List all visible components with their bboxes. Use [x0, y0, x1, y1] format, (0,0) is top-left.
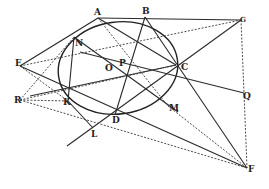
line-N-L [68, 37, 74, 101]
label-F: F [248, 164, 255, 174]
label-K: K [63, 97, 72, 107]
diagram-canvas: A B G N E O P C Q R K D L M F [0, 0, 269, 189]
dash-E-G [20, 20, 241, 66]
line-K-L [68, 101, 93, 128]
label-Q: Q [243, 91, 251, 101]
label-A: A [93, 7, 102, 17]
label-D: D [112, 115, 120, 125]
label-R: R [14, 95, 22, 105]
label-E: E [15, 58, 22, 68]
dash-Q-F [244, 93, 247, 168]
geometry-figure: A B G N E O P C Q R K D L M F [0, 0, 269, 189]
label-M: M [169, 103, 179, 113]
line-N-M [74, 37, 178, 112]
line-A-G [98, 18, 241, 20]
label-O: O [105, 63, 113, 73]
label-G: G [240, 15, 246, 24]
dash-R-K [20, 100, 68, 101]
label-P: P [119, 58, 126, 68]
dash-G-Q [241, 20, 244, 93]
line-E-A [20, 18, 98, 66]
dash-R-N [20, 37, 74, 100]
label-B: B [142, 6, 150, 16]
label-N: N [75, 38, 83, 48]
dash-R-F [20, 100, 247, 168]
label-L: L [91, 129, 98, 139]
dash-M-F [168, 106, 247, 168]
label-C: C [181, 62, 188, 72]
